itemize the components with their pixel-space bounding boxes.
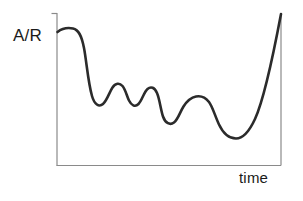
data-curve [58, 14, 282, 139]
chart-figure: A/R time [0, 0, 303, 201]
y-axis-label: A/R [13, 27, 42, 44]
x-axis-label: time [239, 170, 268, 185]
